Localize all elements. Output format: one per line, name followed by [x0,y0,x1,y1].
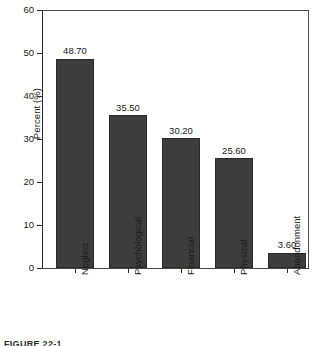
x-tick-abandonment [287,269,288,273]
bar-value-physical: 25.60 [199,145,269,156]
bar-group-financial[interactable]: 30.20 [162,10,200,268]
bar-value-financial: 30.20 [146,125,216,136]
x-tick-neglect [75,269,76,273]
x-label-psychological: Psychological [132,217,143,275]
figure-caption: FIGURE 22-1 [4,339,62,346]
x-label-neglect: Neglect [79,243,90,275]
y-tick-label: 40 [23,90,34,101]
y-tick-mark [37,268,42,269]
bar-series: 48.70 35.50 30.20 25.60 3.60 [43,10,308,268]
bar-neglect[interactable] [56,59,94,268]
bar-value-neglect: 48.70 [40,45,110,56]
figure-container: Percent (%) 60 50 40 30 20 10 0 48.70 35… [0,0,313,346]
x-tick-financial [181,269,182,273]
x-tick-physical [234,269,235,273]
y-tick-mark [37,182,42,183]
y-tick-label: 60 [23,4,34,15]
bar-group-physical[interactable]: 25.60 [215,10,253,268]
y-tick-label: 20 [23,176,34,187]
y-tick-label: 30 [23,133,34,144]
x-label-financial: Financial [185,237,196,275]
x-label-physical: Physical [238,240,249,275]
x-label-abandonment: Abandonment [291,216,302,275]
bar-value-abandonment: 3.60 [252,239,313,250]
y-tick-mark [37,225,42,226]
bar-group-neglect[interactable]: 48.70 [56,10,94,268]
y-tick-label: 50 [23,47,34,58]
y-axis-label: Percent (%) [31,54,42,174]
y-tick-label: 10 [23,219,34,230]
bar-value-psychological: 35.50 [93,102,163,113]
y-tick-mark [37,96,42,97]
x-tick-psychological [128,269,129,273]
y-tick-mark [37,139,42,140]
y-tick-mark [37,10,42,11]
y-tick-label: 0 [29,262,34,273]
